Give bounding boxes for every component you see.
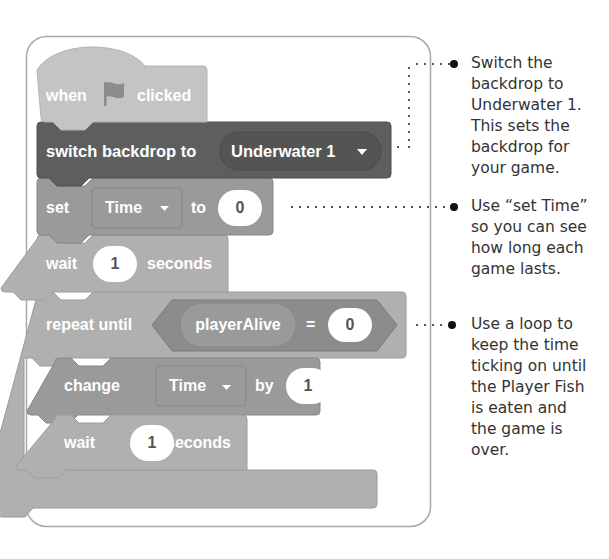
callout-line: Underwater 1.	[471, 95, 609, 116]
wait-2-label: wait	[64, 433, 95, 453]
callout-line: game lasts.	[471, 259, 609, 280]
callout-switch-backdrop: Switch the backdrop to Underwater 1. Thi…	[471, 53, 609, 179]
condition-right-value[interactable]: 0	[328, 315, 372, 335]
callout-line: backdrop to	[471, 74, 609, 95]
when-label: when	[46, 86, 87, 106]
callout-set-time: Use “set Time” so you can see how long e…	[471, 196, 609, 280]
set-value[interactable]: 0	[218, 198, 262, 218]
callout-bullet-3	[448, 321, 456, 329]
wait-1-value[interactable]: 1	[93, 254, 137, 274]
wait-2-unit: seconds	[166, 433, 231, 453]
change-value[interactable]: 1	[286, 376, 330, 396]
callout-line: how long each	[471, 238, 609, 259]
change-label: change	[64, 376, 120, 396]
callout-line: the game is	[471, 419, 609, 440]
callout-line: is eaten and	[471, 398, 609, 419]
callout-line: keep the time	[471, 335, 609, 356]
callout-line: This sets the	[471, 116, 609, 137]
condition-left-value[interactable]: playerAlive	[180, 315, 296, 335]
clicked-label: clicked	[137, 86, 191, 106]
set-variable-value[interactable]: Time	[105, 198, 142, 218]
change-by-label: by	[255, 376, 274, 396]
callout-line: so you can see	[471, 217, 609, 238]
callout-line: ticking on until	[471, 356, 609, 377]
callout-line: your game.	[471, 158, 609, 179]
callout-bullet-1	[450, 60, 458, 68]
callout-line: backdrop for	[471, 137, 609, 158]
wait-1-label: wait	[46, 254, 77, 274]
figure: when clicked switch backdrop to Underwat…	[0, 0, 609, 559]
callout-line: the Player Fish	[471, 377, 609, 398]
set-to-label: to	[191, 198, 206, 218]
callout-loop: Use a loop to keep the time ticking on u…	[471, 314, 609, 461]
wait-1-unit: seconds	[147, 254, 212, 274]
callout-bullet-2	[450, 203, 458, 211]
change-variable-value[interactable]: Time	[169, 376, 206, 396]
condition-operator: =	[306, 315, 315, 335]
callout-line: over.	[471, 440, 609, 461]
set-label: set	[46, 198, 69, 218]
backdrop-dropdown-value[interactable]: Underwater 1	[231, 141, 336, 161]
switch-backdrop-label: switch backdrop to	[46, 141, 196, 161]
callout-line: Use a loop to	[471, 314, 609, 335]
callout-line: Switch the	[471, 53, 609, 74]
callout-line: Use “set Time”	[471, 196, 609, 217]
repeat-until-label: repeat until	[46, 315, 132, 335]
